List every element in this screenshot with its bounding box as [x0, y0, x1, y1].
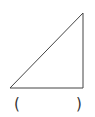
right-triangle — [10, 13, 83, 88]
answer-open-paren: ( — [14, 97, 20, 112]
answer-close-paren: ) — [76, 97, 82, 112]
